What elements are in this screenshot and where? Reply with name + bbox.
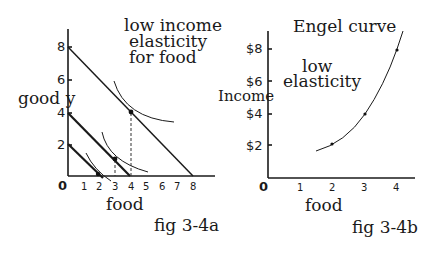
engel-curve [316,31,403,151]
x-tick-label: 4 [393,182,399,193]
annotation-line-3: for food [129,47,197,67]
figure-b: Engel curve low elasticity Income $2 $4 … [218,16,418,237]
engel-point [395,48,398,51]
y-axis-label: Income [218,87,274,105]
y-tick-label: 4 [57,105,65,120]
y-tick-label: $2 [246,138,263,153]
figure-caption: fig 3-4a [154,215,219,235]
x-tick-label: 3 [361,182,367,193]
y-tick-label: 2 [57,137,65,152]
y-tick-label: $6 [246,74,263,89]
x-tick-label: 5 [143,181,149,192]
x-tick-label: 2 [96,181,102,192]
indifference-curve-3 [114,81,174,122]
x-tick-label: 2 [329,182,335,193]
x-tick-label: 1 [81,181,87,192]
tangency-point [129,110,134,115]
y-tick-label: 8 [57,39,65,54]
y-tick-label: 6 [57,72,65,87]
y-tick-label: $8 [246,41,263,56]
engel-point [330,142,333,145]
tangency-point [113,157,118,162]
figure-caption: fig 3-4b [352,217,418,237]
engel-point [363,112,366,115]
y-axis-label: good y [18,88,76,108]
origin-label: 0 [58,178,67,193]
x-axis-label: food [305,195,343,215]
chart-title: Engel curve [293,16,396,36]
diagram-canvas: low income elasticity for food good y 2 … [0,0,436,253]
x-tick-label: 8 [190,181,196,192]
annotation-line-2: elasticity [283,71,361,91]
figure-a: low income elasticity for food good y 2 … [18,15,222,235]
x-tick-label: 1 [297,182,303,193]
x-axis-label: food [106,194,144,214]
x-tick-label: 6 [159,181,165,192]
budget-line-2 [68,113,130,176]
y-tick-label: $4 [246,106,263,121]
indifference-curve-2 [102,132,148,172]
x-tick-label: 4 [128,181,134,192]
origin-label: 0 [259,179,268,194]
x-tick-label: 3 [112,181,118,192]
x-tick-label: 7 [174,181,180,192]
tangency-point [96,172,100,176]
